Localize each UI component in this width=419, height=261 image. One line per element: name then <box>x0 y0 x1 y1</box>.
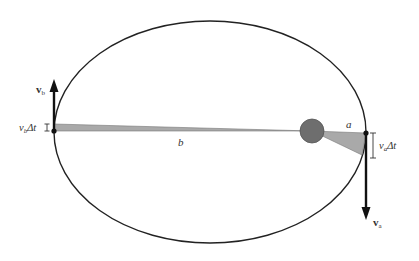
label-va-vector: va <box>373 216 383 230</box>
label-vb-dt: vbΔt <box>19 122 37 135</box>
label-vb-vector: vb <box>36 83 46 97</box>
label-va-dt: vaΔt <box>379 140 397 153</box>
aphelion-sector <box>54 124 312 131</box>
velocity-b-arrow <box>50 79 59 131</box>
label-a-distance: a <box>346 118 352 130</box>
label-b-distance: b <box>178 136 184 148</box>
sun <box>300 119 324 143</box>
vb-dt-bracket <box>45 124 50 131</box>
va-dt-bracket <box>370 133 376 158</box>
kepler-diagram: vb vbΔt b a vaΔt va <box>0 0 419 261</box>
